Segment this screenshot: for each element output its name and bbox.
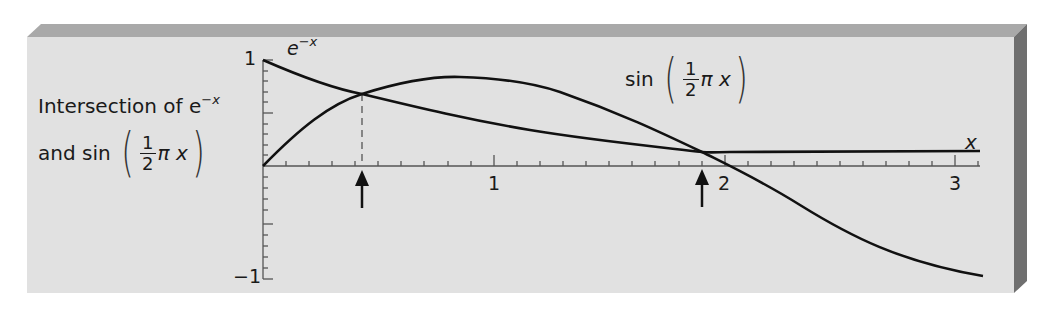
left-paren: (: [121, 126, 134, 180]
x-tick-label-3: 3: [949, 172, 961, 194]
title-line-1: Intersection of e−x: [38, 94, 220, 118]
title-fraction: 12: [140, 133, 155, 174]
curve-label-sin-suffix: π x: [701, 67, 731, 91]
curve-label-exp-sup: −x: [299, 34, 318, 49]
left-paren: (: [664, 52, 677, 106]
curve-label-exp: e−x: [287, 37, 317, 59]
panel-top-bevel: [27, 24, 1027, 37]
y-tick-label-top: 1: [244, 47, 256, 69]
title-line-1-sup: −x: [201, 92, 220, 107]
title-line-2-prefix: and sin: [38, 141, 111, 165]
right-paren: ): [192, 126, 205, 180]
title-line-2-suffix: π x: [158, 141, 188, 165]
y-tick-label-bottom: −1: [233, 265, 261, 287]
x-tick-label-2: 2: [718, 172, 730, 194]
curve-label-sin-prefix: sin: [625, 67, 654, 91]
curve-label-exp-base: e: [287, 37, 299, 59]
x-tick-label-1: 1: [488, 172, 500, 194]
title-line-1-text: Intersection of e: [38, 94, 201, 118]
title-line-2: and sin (12π x): [38, 126, 209, 180]
right-paren: ): [735, 52, 748, 106]
curve-label-sin-fraction: 12: [683, 59, 698, 100]
x-axis-label: x: [965, 130, 977, 154]
curve-label-sin: sin (12π x): [625, 52, 752, 106]
figure-panel: 1 −1 1 2 3 x e−x sin (12π x) Intersectio…: [0, 0, 1053, 312]
panel-right-side: [1014, 24, 1027, 293]
